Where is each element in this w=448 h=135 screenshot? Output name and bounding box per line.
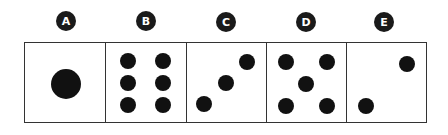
dot-icon (319, 54, 335, 70)
dot-icon (51, 69, 81, 99)
option-label-a: A (56, 11, 76, 31)
dot-icon (298, 76, 314, 92)
dot-icon (120, 53, 136, 69)
dot-icon (120, 75, 136, 91)
option-label-d: D (296, 12, 316, 32)
dot-icon (120, 97, 136, 113)
dot-icon (155, 97, 171, 113)
dot-icon (319, 98, 335, 114)
option-label-e: E (374, 12, 394, 32)
option-box-b (105, 42, 187, 123)
dot-icon (278, 54, 294, 70)
dot-icon (239, 54, 255, 70)
dot-icon (218, 75, 234, 91)
dot-icon (278, 98, 294, 114)
dot-icon (155, 75, 171, 91)
dot-icon (358, 98, 374, 114)
dot-icon (196, 96, 212, 112)
option-box-e (346, 42, 427, 123)
dot-icon (399, 56, 415, 72)
dot-icon (155, 53, 171, 69)
option-label-c: C (216, 12, 236, 32)
option-label-b: B (136, 11, 156, 31)
